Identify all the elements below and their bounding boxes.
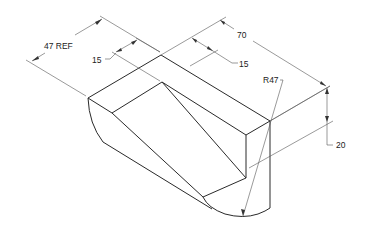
dimension-20: 20	[336, 141, 345, 150]
dimension-15-right: 15	[239, 60, 248, 69]
arrowheads	[32, 19, 329, 216]
part-drawing	[0, 0, 367, 240]
dimension-radius-r47: R47	[263, 76, 279, 85]
dimension-15-left: 15	[92, 56, 101, 65]
dimension-70: 70	[237, 31, 246, 40]
part-outline	[88, 55, 270, 217]
dimension-47-ref: 47 REF	[44, 42, 73, 51]
